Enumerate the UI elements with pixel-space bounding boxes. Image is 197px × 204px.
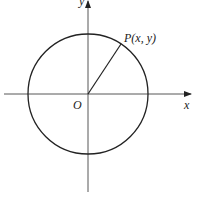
y-axis-label: y: [78, 0, 85, 8]
unit-circle-diagram: P(x, y) O x y: [0, 0, 197, 204]
x-axis-label: x: [183, 98, 190, 112]
origin-label: O: [73, 98, 82, 112]
point-p-label: P(x, y): [123, 31, 156, 45]
radius-line-op: [88, 44, 121, 94]
